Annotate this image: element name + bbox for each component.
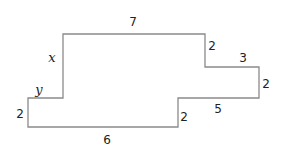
polygon-shape-svg [0,0,285,153]
label-variable-x: x [48,51,55,64]
label-step-run-3: 3 [239,52,247,64]
diagram-canvas: 7 x 2 3 2 5 2 6 2 y [0,0,285,153]
label-top-7: 7 [129,16,137,28]
label-lower-drop-2: 2 [180,111,188,123]
label-left-2: 2 [16,108,24,120]
label-variable-y: y [35,83,42,96]
label-lower-run-5: 5 [214,103,222,115]
label-bottom-6: 6 [103,134,111,146]
label-step-drop-2: 2 [208,40,216,52]
label-right-2: 2 [262,78,270,90]
rectilinear-polygon [28,34,259,127]
